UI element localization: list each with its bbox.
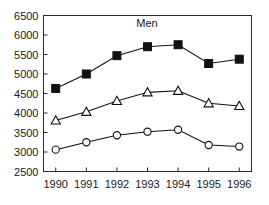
chart-figure: 250030003500400045005000550060006500 199… — [0, 0, 269, 205]
x-tick-label: 1990 — [43, 178, 67, 190]
data-point-filled-square — [174, 41, 182, 49]
y-tick-label: 6000 — [14, 29, 38, 41]
x-tick-label: 1994 — [166, 178, 190, 190]
data-point-filled-square — [52, 84, 60, 92]
x-tick-label: 1991 — [74, 178, 98, 190]
data-point-filled-square — [82, 70, 90, 78]
y-tick-label: 4500 — [14, 88, 38, 100]
y-tick-label: 5000 — [14, 68, 38, 80]
data-point-open-circle — [205, 141, 212, 148]
y-tick-label: 5500 — [14, 49, 38, 61]
data-point-filled-square — [205, 59, 213, 67]
chart-title: Men — [136, 17, 157, 29]
data-point-open-circle — [236, 143, 243, 150]
y-axis-tick-labels: 250030003500400045005000550060006500 — [14, 10, 38, 178]
data-point-filled-square — [144, 43, 152, 51]
y-tick-label: 3000 — [14, 146, 38, 158]
data-point-filled-square — [113, 52, 121, 60]
chart-background — [0, 0, 269, 205]
data-point-open-circle — [83, 139, 90, 146]
data-point-open-circle — [174, 126, 181, 133]
data-point-filled-square — [235, 55, 243, 63]
data-point-open-circle — [144, 128, 151, 135]
x-tick-label: 1992 — [105, 178, 129, 190]
y-tick-label: 6500 — [14, 10, 38, 22]
chart-canvas: 250030003500400045005000550060006500 199… — [0, 0, 269, 205]
y-tick-label: 2500 — [14, 166, 38, 178]
data-point-open-circle — [113, 132, 120, 139]
x-axis-tick-labels: 1990199119921993199419951996 — [43, 178, 251, 190]
data-point-open-circle — [52, 146, 59, 153]
y-tick-label: 4000 — [14, 107, 38, 119]
x-tick-label: 1996 — [227, 178, 251, 190]
x-tick-label: 1993 — [135, 178, 159, 190]
x-tick-label: 1995 — [196, 178, 220, 190]
y-tick-label: 3500 — [14, 127, 38, 139]
